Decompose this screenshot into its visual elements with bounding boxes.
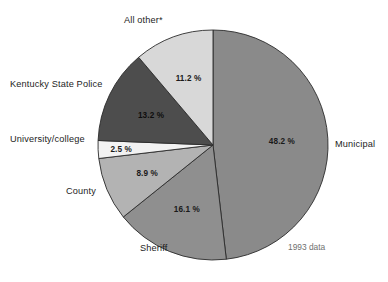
pie-slice-value: 11.2 % (176, 74, 202, 83)
pie-slice-value: 48.2 % (269, 137, 296, 146)
label-all-other: All other* (124, 16, 163, 25)
label-municipal: Municipal (335, 140, 375, 149)
data-year-note: 1993 data (288, 243, 325, 251)
label-sheriff: Sheriff (140, 244, 167, 253)
pie-slice-value: 2.5 % (110, 145, 132, 154)
pie-slice-value: 8.9 % (136, 169, 158, 178)
pie-chart-figure: 48.2 %16.1 %8.9 %2.5 %13.2 %11.2 % All o… (0, 0, 388, 282)
label-kentucky-state-police: Kentucky State Police (10, 80, 103, 89)
pie-slice-value: 16.1 % (174, 205, 201, 214)
label-university-college: University/college (10, 135, 85, 144)
figure-caption (0, 276, 388, 282)
label-county: County (66, 187, 96, 196)
pie-slice-value: 13.2 % (138, 111, 165, 120)
